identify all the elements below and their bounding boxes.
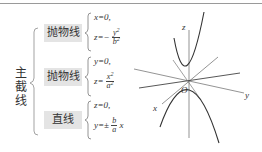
x-axis-label: x xyxy=(152,103,157,113)
downward-parabola xyxy=(160,90,219,143)
asymptote-line xyxy=(139,73,240,88)
z-axis-label: z xyxy=(181,22,186,32)
origin-label: O xyxy=(181,85,188,95)
y-axis-label: y xyxy=(244,90,249,100)
saddle-surface-diagram: z x y O xyxy=(0,0,262,152)
